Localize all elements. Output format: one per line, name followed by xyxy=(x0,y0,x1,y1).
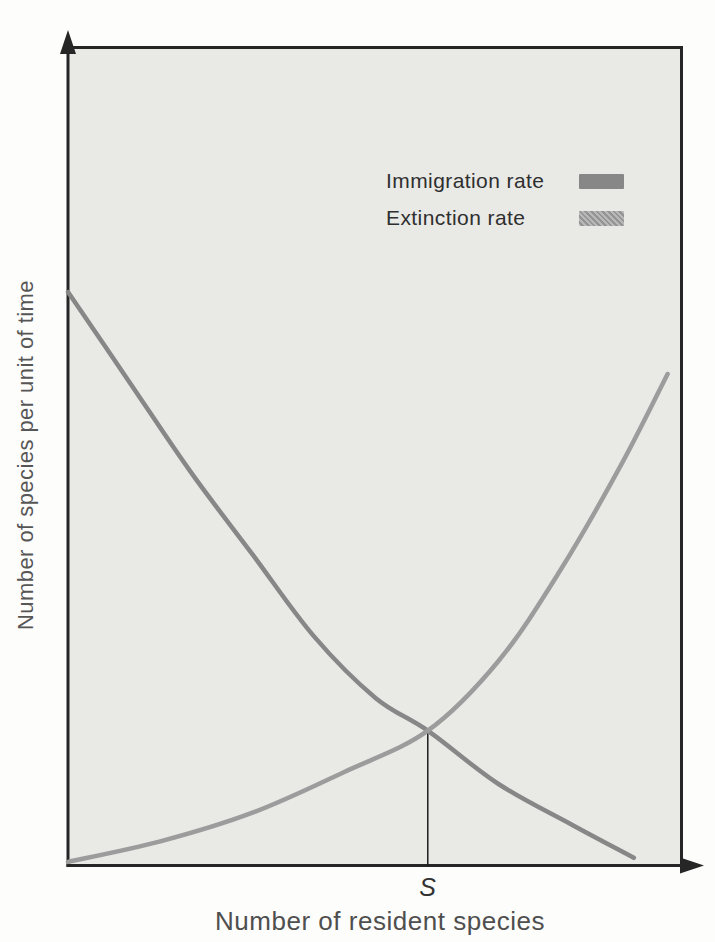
chart-legend: Immigration rate Extinction rate xyxy=(386,169,624,230)
legend-item-extinction: Extinction rate xyxy=(386,206,624,230)
equilibrium-label: S xyxy=(419,873,436,902)
x-axis-arrow xyxy=(680,858,704,874)
legend-swatch-immigration xyxy=(579,174,624,189)
chart-canvas xyxy=(0,0,715,942)
legend-label-immigration: Immigration rate xyxy=(386,169,544,193)
legend-item-immigration: Immigration rate xyxy=(386,169,624,193)
x-axis-label: Number of resident species xyxy=(215,906,545,937)
legend-label-extinction: Extinction rate xyxy=(386,206,525,230)
legend-swatch-extinction xyxy=(579,211,624,226)
y-axis-arrow xyxy=(60,30,76,54)
island-biogeography-figure: Immigration rate Extinction rate Number … xyxy=(0,0,715,942)
y-axis-label: Number of species per unit of time xyxy=(13,280,39,630)
